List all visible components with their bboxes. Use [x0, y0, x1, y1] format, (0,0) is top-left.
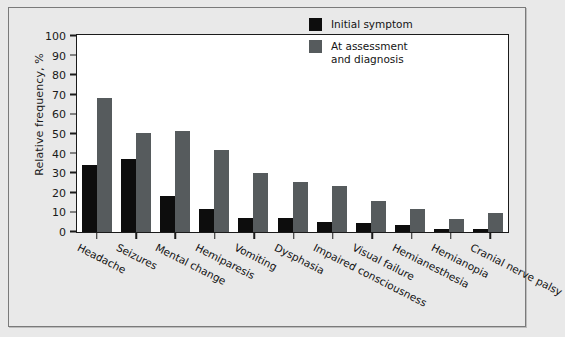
- bar: [136, 133, 151, 232]
- bar: [434, 229, 449, 232]
- bar: [356, 223, 371, 232]
- y-axis-tick: 60: [44, 108, 77, 121]
- bar: [371, 201, 386, 232]
- bar: [488, 213, 503, 232]
- x-axis-tick: [332, 232, 334, 239]
- chart-figure: Relative frequency, % 100908070605040302…: [8, 7, 526, 327]
- x-axis-tick: [490, 232, 492, 239]
- bar: [199, 209, 214, 232]
- bar: [121, 159, 136, 233]
- x-axis-tick: [253, 232, 255, 239]
- legend-item-initial-symptom: Initial symptom: [309, 18, 413, 31]
- bar-group: [469, 35, 508, 232]
- bar: [332, 186, 347, 232]
- bar: [238, 218, 253, 232]
- legend-label-initial-symptom: Initial symptom: [331, 18, 413, 31]
- bar: [449, 219, 464, 232]
- legend-swatch-at-assessment: [309, 40, 322, 53]
- plot-area: 1009080706050403020100HeadacheSeizuresMe…: [76, 34, 509, 233]
- legend-swatch-initial-symptom: [309, 18, 322, 31]
- bar: [175, 131, 190, 232]
- bar-group: [430, 35, 469, 232]
- bar-group: [195, 35, 234, 232]
- bar-group: [234, 35, 273, 232]
- y-axis-tick: 70: [44, 88, 77, 101]
- legend-item-at-assessment: At assessment and diagnosis: [309, 40, 413, 65]
- x-axis-tick: [450, 232, 452, 239]
- bar: [160, 196, 175, 232]
- chart-legend: Initial symptom At assessment and diagno…: [309, 18, 413, 74]
- y-axis-tick: 20: [44, 186, 77, 199]
- x-axis-tick: [175, 232, 177, 239]
- bar-group: [273, 35, 312, 232]
- x-axis-tick: [96, 232, 98, 239]
- x-axis-tick: [135, 232, 137, 239]
- bar: [473, 229, 488, 232]
- bar-group: [155, 35, 194, 232]
- x-axis-tick: [411, 232, 413, 239]
- bar-groups: [77, 35, 508, 232]
- y-axis-tick: 0: [44, 226, 77, 239]
- y-axis-tick: 90: [44, 49, 77, 62]
- bar: [317, 222, 332, 232]
- x-axis-tick: [371, 232, 373, 239]
- y-axis-tick: 50: [44, 128, 77, 141]
- y-axis-tick: 30: [44, 167, 77, 180]
- x-axis-tick: [214, 232, 216, 239]
- bar: [395, 225, 410, 232]
- bar: [97, 98, 112, 232]
- y-axis-tick: 100: [44, 30, 77, 43]
- bar: [82, 165, 97, 232]
- y-axis-tick: 40: [44, 147, 77, 160]
- legend-label-at-assessment-line2: and diagnosis: [331, 53, 408, 66]
- y-axis-tick: 80: [44, 69, 77, 82]
- legend-label-at-assessment-line1: At assessment: [331, 40, 408, 53]
- bar-group: [77, 35, 116, 232]
- legend-label-at-assessment: At assessment and diagnosis: [331, 40, 408, 65]
- y-axis-tick: 10: [44, 206, 77, 219]
- bar: [214, 150, 229, 232]
- bar: [253, 173, 268, 232]
- bar: [278, 218, 293, 232]
- bar: [293, 182, 308, 232]
- bar: [410, 209, 425, 232]
- bar-group: [116, 35, 155, 232]
- x-axis-tick: [293, 232, 295, 239]
